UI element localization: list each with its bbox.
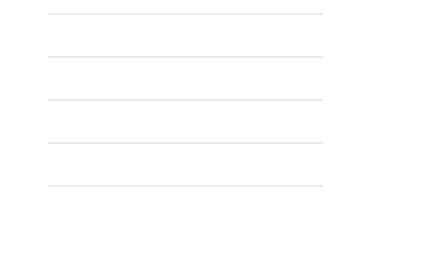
chart-container	[0, 0, 439, 277]
line-chart	[0, 0, 439, 277]
gridlines	[48, 14, 323, 186]
